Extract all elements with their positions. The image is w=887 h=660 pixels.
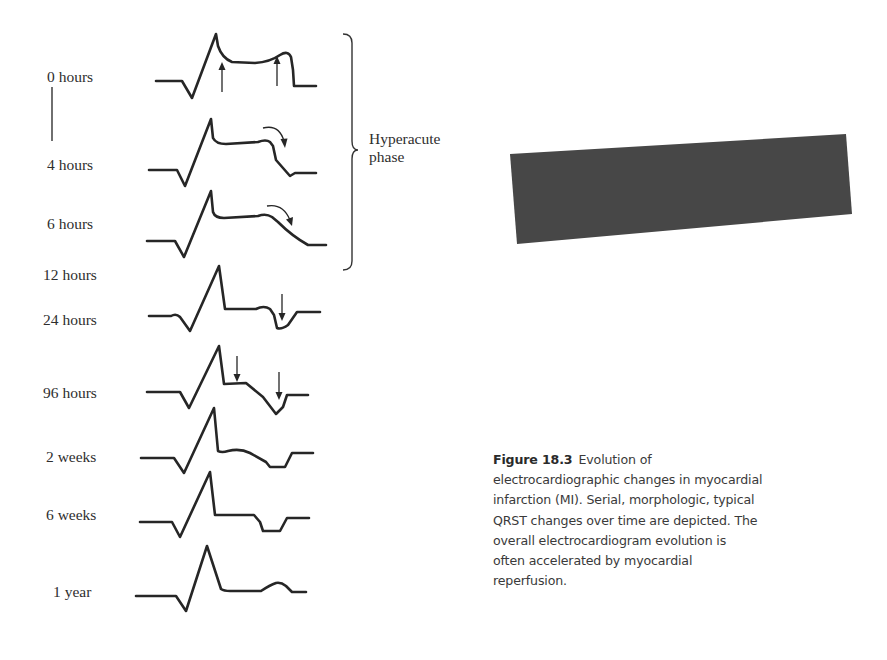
down-arrow-icon (279, 294, 286, 321)
ecg-trace-96-hours (147, 346, 308, 414)
ecg-traces (136, 34, 326, 611)
caption-line: infarction (MI). Serial, morphologic, ty… (493, 490, 863, 510)
ecg-trace-24-hours (149, 266, 320, 331)
time-label-2-weeks: 2 weeks (46, 448, 96, 465)
caption-text: Evolution of (578, 452, 651, 467)
caption-line: overall electrocardiogram evolution is (493, 531, 863, 551)
figure-number: Figure 18.3 (493, 452, 572, 467)
time-label-6-weeks: 6 weeks (46, 506, 96, 523)
redaction-block (510, 134, 852, 244)
up-arrow-icon (219, 62, 226, 92)
caption-line: often accelerated by myocardial (493, 551, 863, 571)
caption-line: QRST changes over time are depicted. The (493, 511, 863, 531)
ecg-trace-4-hours (149, 119, 316, 186)
down-arrow-icon (276, 372, 283, 400)
caption-line: electrocardiographic changes in myocardi… (493, 470, 863, 490)
phase-label-line1: Hyperacute (369, 130, 441, 147)
time-label-6-hours: 6 hours (47, 215, 93, 232)
ecg-trace-0-hours (156, 34, 316, 98)
time-label-0-hours: 0 hours (47, 68, 93, 85)
ecg-trace-6-hours (147, 191, 326, 257)
time-label-96-hours: 96 hours (43, 384, 97, 401)
time-label-12-hours: 12 hours (43, 266, 97, 283)
hyperacute-phase-bracket: Hyperacute phase (343, 34, 441, 270)
time-label-24-hours: 24 hours (43, 311, 97, 328)
time-labels: 0 hours 4 hours 6 hours 12 hours 24 hour… (43, 68, 97, 600)
down-arrow-icon (234, 356, 241, 382)
figure-caption: Figure 18.3Evolution of electrocardiogra… (493, 450, 863, 591)
curly-brace (343, 34, 358, 270)
ecg-trace-6-weeks (140, 472, 309, 537)
curved-down-arrow-icon (263, 127, 288, 148)
up-arrow-icon (274, 56, 281, 86)
phase-label-line2: phase (369, 148, 404, 165)
ecg-trace-2-weeks (141, 408, 313, 473)
time-label-1-year: 1 year (53, 583, 92, 600)
caption-line: reperfusion. (493, 571, 863, 591)
time-label-4-hours: 4 hours (47, 156, 93, 173)
ecg-trace-1-year (136, 546, 306, 611)
caption-line: Figure 18.3Evolution of (493, 450, 863, 470)
